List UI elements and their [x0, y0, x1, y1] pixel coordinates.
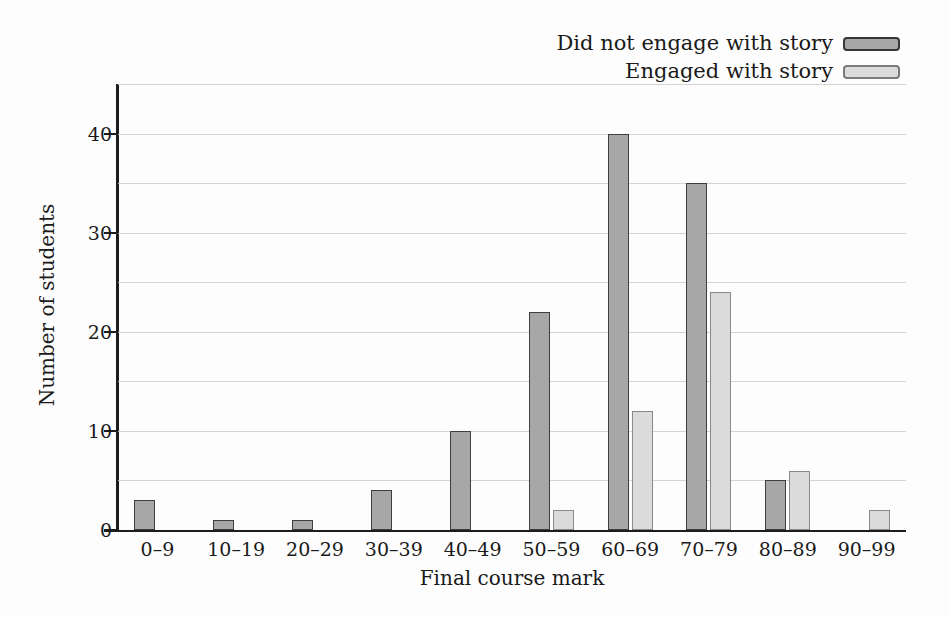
- bar-did-not-engage-0–9: [134, 500, 155, 530]
- bar-group-0–9: [118, 84, 197, 530]
- bar-group-30–39: [354, 84, 433, 530]
- bar-group-50–59: [512, 84, 591, 530]
- y-tick-label-40: 40: [52, 125, 112, 144]
- bar-chart-figure: Did not engage with storyEngaged with st…: [0, 0, 949, 617]
- x-tick-label-50–59: 50–59: [522, 538, 580, 560]
- bar-group-10–19: [197, 84, 276, 530]
- bar-engaged-50–59: [553, 510, 574, 530]
- plot-area: 0102030400–910–1920–2930–3940–4950–5960–…: [118, 84, 906, 530]
- x-tick-label-40–49: 40–49: [444, 538, 502, 560]
- bar-did-not-engage-70–79: [686, 183, 707, 530]
- x-tick-label-10–19: 10–19: [207, 538, 265, 560]
- bar-group-40–49: [433, 84, 512, 530]
- legend-label: Did not engage with story: [556, 31, 833, 56]
- y-tick-label-30: 30: [52, 224, 112, 243]
- bar-did-not-engage-20–29: [292, 520, 313, 530]
- bar-did-not-engage-60–69: [608, 134, 629, 530]
- x-tick-label-60–69: 60–69: [601, 538, 659, 560]
- bar-group-90–99: [827, 84, 906, 530]
- legend-item-engaged: Engaged with story: [625, 59, 900, 84]
- bar-group-20–29: [276, 84, 355, 530]
- x-axis-title: Final course mark: [420, 566, 605, 590]
- bar-did-not-engage-40–49: [450, 431, 471, 530]
- bar-engaged-70–79: [710, 292, 731, 530]
- bar-group-80–89: [748, 84, 827, 530]
- legend-label: Engaged with story: [625, 59, 833, 84]
- legend: Did not engage with storyEngaged with st…: [556, 31, 900, 84]
- bar-engaged-90–99: [869, 510, 890, 530]
- legend-swatch-icon: [843, 65, 900, 79]
- legend-swatch-icon: [843, 37, 900, 51]
- bar-did-not-engage-30–39: [371, 490, 392, 530]
- bar-group-60–69: [591, 84, 670, 530]
- x-tick-label-70–79: 70–79: [680, 538, 738, 560]
- y-tick-label-0: 0: [52, 521, 112, 540]
- bar-engaged-60–69: [632, 411, 653, 530]
- x-tick-label-0–9: 0–9: [141, 538, 175, 560]
- bar-did-not-engage-80–89: [765, 480, 786, 530]
- bar-engaged-80–89: [789, 471, 810, 530]
- legend-item-did-not-engage: Did not engage with story: [556, 31, 900, 56]
- x-tick-label-20–29: 20–29: [286, 538, 344, 560]
- y-tick-label-10: 10: [52, 422, 112, 441]
- y-tick-label-20: 20: [52, 323, 112, 342]
- bar-did-not-engage-10–19: [213, 520, 234, 530]
- x-tick-label-90–99: 90–99: [838, 538, 896, 560]
- x-tick-label-80–89: 80–89: [759, 538, 817, 560]
- y-axis-title: Number of students: [35, 204, 59, 407]
- bar-group-70–79: [670, 84, 749, 530]
- bar-did-not-engage-50–59: [529, 312, 550, 530]
- x-tick-label-30–39: 30–39: [365, 538, 423, 560]
